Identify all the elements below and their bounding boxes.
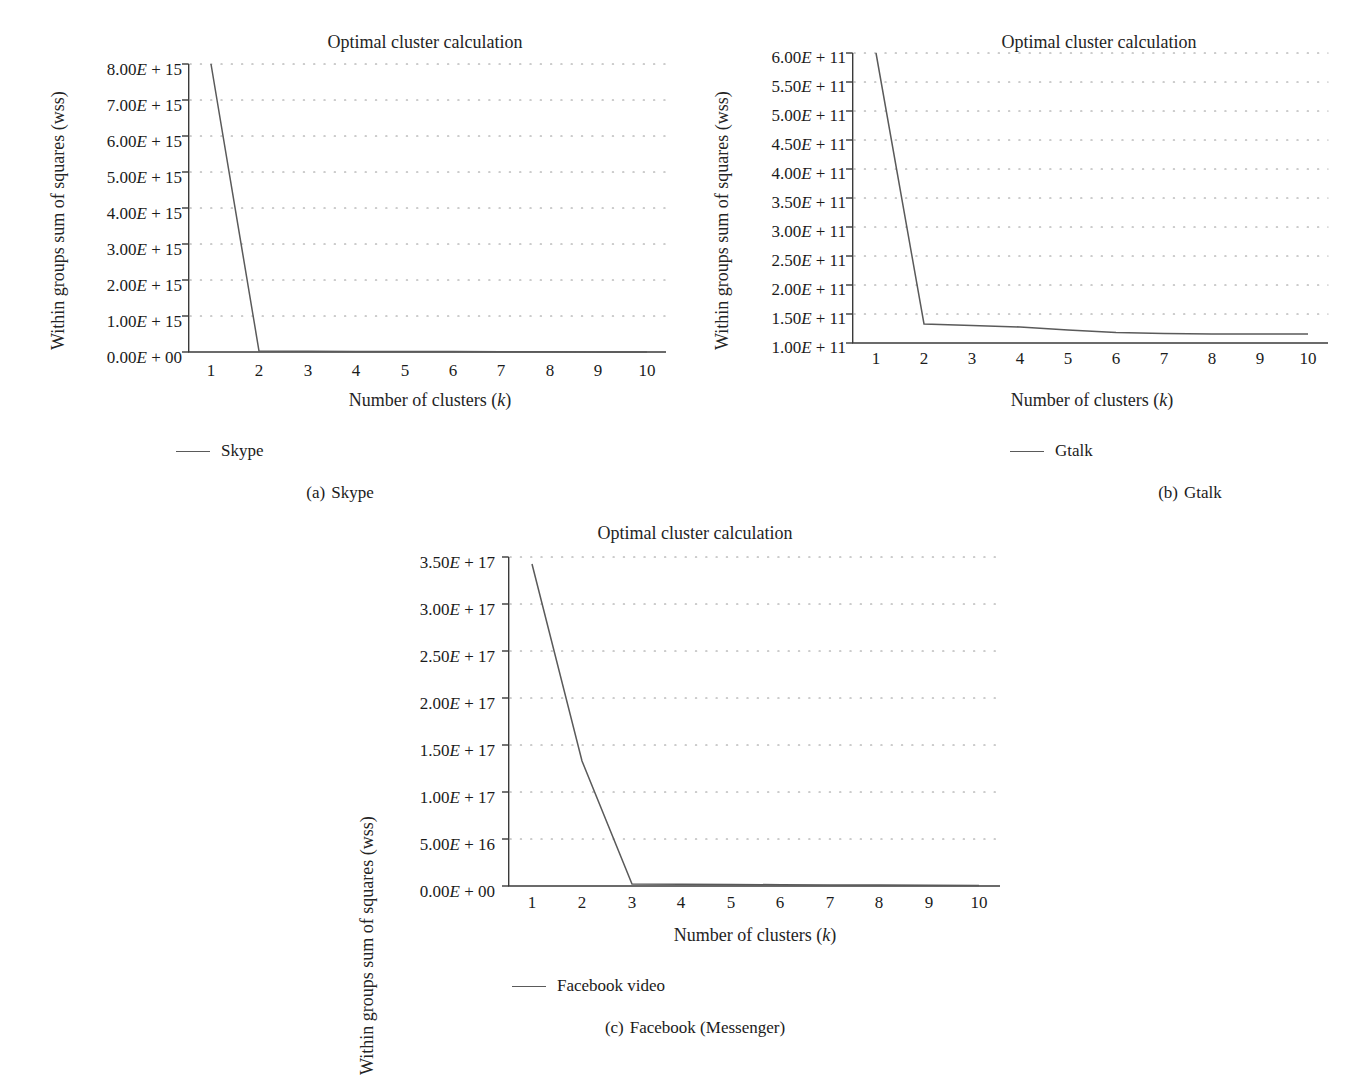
y-tick-label: 6.00E + 11 (721, 49, 846, 66)
x-tick-label: 2 (562, 894, 602, 911)
x-tick-label: 3 (288, 362, 328, 379)
y-tick-label: 2.50E + 17 (370, 648, 495, 665)
x-tick-label: 9 (909, 894, 949, 911)
caption-index: (c) (605, 1018, 624, 1037)
legend-b: Gtalk (1010, 441, 1093, 461)
x-tick-label: 5 (385, 362, 425, 379)
chart-title-c: Optimal cluster calculation (550, 523, 840, 544)
y-tick-label: 3.50E + 11 (721, 194, 846, 211)
x-tick-label: 9 (1240, 350, 1280, 367)
x-tick-label: 6 (1096, 350, 1136, 367)
plot-area-c (508, 557, 1000, 889)
panel-gtalk: Optimal cluster calculation Within group… (679, 0, 1358, 500)
y-tick-label: 8.00E + 15 (62, 61, 182, 78)
chart-title-b: Optimal cluster calculation (954, 32, 1244, 53)
caption-a: (a)Skype (240, 483, 440, 503)
y-tick-label: 2.00E + 11 (721, 281, 846, 298)
x-tick-label: 1 (512, 894, 552, 911)
legend-line-swatch-icon (176, 451, 210, 452)
y-tick-label: 1.00E + 15 (62, 313, 182, 330)
x-tick-label: 2 (904, 350, 944, 367)
y-tick-label: 5.00E + 15 (62, 169, 182, 186)
plot-area-a (188, 64, 666, 356)
x-tick-label: 10 (959, 894, 999, 911)
legend-label: Skype (221, 441, 264, 461)
legend-label: Gtalk (1055, 441, 1093, 461)
x-tick-label: 8 (530, 362, 570, 379)
y-tick-label: 2.50E + 11 (721, 252, 846, 269)
x-tick-label: 5 (1048, 350, 1088, 367)
x-tick-label: 3 (612, 894, 652, 911)
y-tick-label: 4.00E + 15 (62, 205, 182, 222)
y-tick-label: 1.00E + 11 (721, 339, 846, 356)
x-tick-label: 10 (1288, 350, 1328, 367)
x-tick-label: 8 (859, 894, 899, 911)
x-tick-label: 4 (336, 362, 376, 379)
x-tick-label: 6 (433, 362, 473, 379)
x-tick-label: 1 (856, 350, 896, 367)
x-tick-label: 9 (578, 362, 618, 379)
y-tick-label: 2.00E + 17 (370, 695, 495, 712)
y-tick-label: 1.00E + 17 (370, 789, 495, 806)
y-tick-label: 3.50E + 17 (370, 554, 495, 571)
y-tick-label: 1.50E + 11 (721, 310, 846, 327)
y-tick-label: 4.00E + 11 (721, 165, 846, 182)
series-line-gtalk (876, 53, 1308, 334)
y-tick-label: 0.00E + 00 (370, 883, 495, 900)
y-tick-label: 7.00E + 15 (62, 97, 182, 114)
y-tick-label: 3.00E + 11 (721, 223, 846, 240)
x-tick-label: 7 (810, 894, 850, 911)
plot-area-b (852, 53, 1328, 345)
caption-index: (b) (1158, 483, 1178, 502)
caption-b: (b)Gtalk (1090, 483, 1290, 503)
x-axis-label-b: Number of clusters (k) (962, 390, 1222, 411)
y-tick-label: 3.00E + 17 (370, 601, 495, 618)
x-tick-label: 7 (1144, 350, 1184, 367)
x-tick-label: 3 (952, 350, 992, 367)
legend-label: Facebook video (557, 976, 665, 996)
x-tick-label: 1 (191, 362, 231, 379)
x-axis-label-c: Number of clusters (k) (625, 925, 885, 946)
x-tick-label: 8 (1192, 350, 1232, 367)
x-tick-label: 4 (1000, 350, 1040, 367)
y-tick-label: 5.50E + 11 (721, 78, 846, 95)
caption-c: (c)Facebook (Messenger) (545, 1018, 845, 1038)
x-tick-label: 5 (711, 894, 751, 911)
x-tick-label: 4 (661, 894, 701, 911)
caption-text: Skype (331, 483, 374, 502)
series-line-facebook-video (532, 564, 979, 886)
y-tick-label: 5.00E + 11 (721, 107, 846, 124)
legend-line-swatch-icon (512, 986, 546, 987)
x-tick-label: 10 (627, 362, 667, 379)
y-tick-label: 2.00E + 15 (62, 277, 182, 294)
caption-text: Facebook (Messenger) (630, 1018, 785, 1037)
legend-line-swatch-icon (1010, 451, 1044, 452)
chart-title-a: Optimal cluster calculation (280, 32, 570, 53)
legend-c: Facebook video (512, 976, 665, 996)
x-tick-label: 2 (239, 362, 279, 379)
y-tick-label: 4.50E + 11 (721, 136, 846, 153)
panel-skype: Optimal cluster calculation Within group… (0, 0, 679, 500)
x-tick-label: 7 (481, 362, 521, 379)
y-axis-label-c: Within groups sum of squares (wss) (357, 816, 378, 1075)
y-tick-label: 3.00E + 15 (62, 241, 182, 258)
y-tick-label: 1.50E + 17 (370, 742, 495, 759)
y-tick-label: 5.00E + 16 (370, 836, 495, 853)
caption-index: (a) (306, 483, 325, 502)
x-axis-label-a: Number of clusters (k) (300, 390, 560, 411)
caption-text: Gtalk (1184, 483, 1222, 502)
y-tick-label: 6.00E + 15 (62, 133, 182, 150)
x-tick-label: 6 (760, 894, 800, 911)
panel-facebook: Optimal cluster calculation Within group… (330, 505, 1030, 1091)
legend-a: Skype (176, 441, 264, 461)
y-tick-label: 0.00E + 00 (62, 349, 182, 366)
